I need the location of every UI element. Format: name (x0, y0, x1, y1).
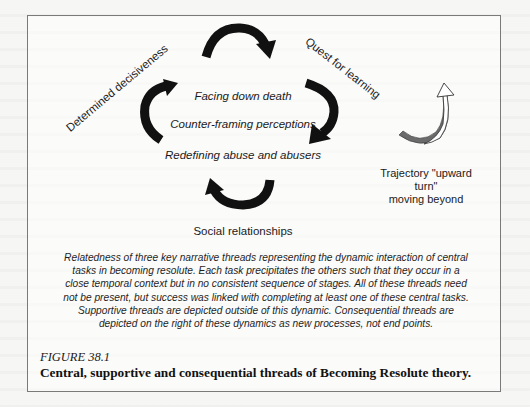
consequential-thread-label: Trajectory "upward turn" moving beyond (374, 167, 478, 206)
cycle-arrow-bottom-icon (205, 178, 270, 205)
cycle-arrow-left-icon (145, 79, 178, 140)
figure-description: Relatedness of three key narrative threa… (60, 251, 472, 330)
trajectory-arrow-icon (399, 83, 454, 144)
trajectory-line-2: moving beyond (374, 193, 478, 206)
central-task-counter-framing: Counter-framing perceptions (170, 118, 316, 130)
figure-number: FIGURE 38.1 (40, 350, 110, 365)
central-task-facing-down-death: Facing down death (194, 90, 291, 102)
central-task-redefining-abuse: Redefining abuse and abusers (165, 149, 321, 161)
cycle-arrow-top-icon (206, 28, 276, 59)
trajectory-line-1: Trajectory "upward turn" (374, 167, 478, 193)
supportive-thread-social-relationships: Social relationships (193, 225, 292, 237)
figure-title: Central, supportive and consequential th… (40, 365, 471, 381)
cycle-arrow-right-icon (306, 83, 334, 144)
